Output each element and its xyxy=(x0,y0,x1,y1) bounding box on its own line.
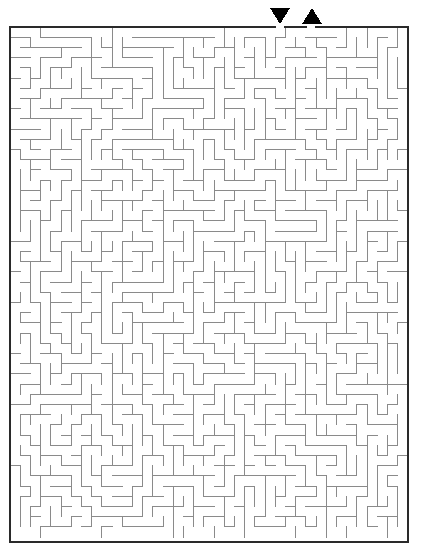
page-background xyxy=(0,0,421,557)
maze-page xyxy=(0,0,421,557)
maze-canvas xyxy=(0,0,421,557)
